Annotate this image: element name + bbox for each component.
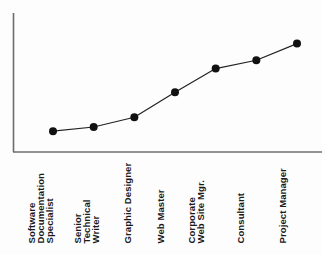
line-chart: Software Documentation Specialist Senior… [0,0,322,255]
series-markers [49,40,301,136]
data-point-marker [212,65,220,73]
data-point-marker [171,88,179,96]
data-point-marker [130,113,138,121]
chart-plot-area [0,0,322,255]
data-point-marker [90,123,98,131]
data-point-marker [252,56,260,64]
data-point-marker [293,40,301,48]
series-line-path [53,44,297,132]
data-point-marker [49,127,57,135]
